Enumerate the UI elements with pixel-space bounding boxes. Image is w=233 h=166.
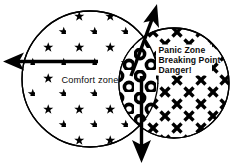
- panic-zone-label-group: Panic Zone Breaking Point Danger!: [156, 45, 221, 76]
- panic-zone-label-line-3: Danger!: [159, 65, 192, 75]
- comfort-zone-label-group: Comfort zone: [58, 74, 118, 87]
- panic-zone-label-line-2: Breaking Point: [159, 55, 221, 65]
- diagram-canvas: Comfort zone Panic Zone Breaking Point D…: [0, 0, 233, 166]
- comfort-zone-label: Comfort zone: [62, 75, 119, 85]
- venn-diagram: Comfort zone Panic Zone Breaking Point D…: [0, 0, 233, 166]
- panic-zone-label-line-1: Panic Zone: [159, 45, 206, 55]
